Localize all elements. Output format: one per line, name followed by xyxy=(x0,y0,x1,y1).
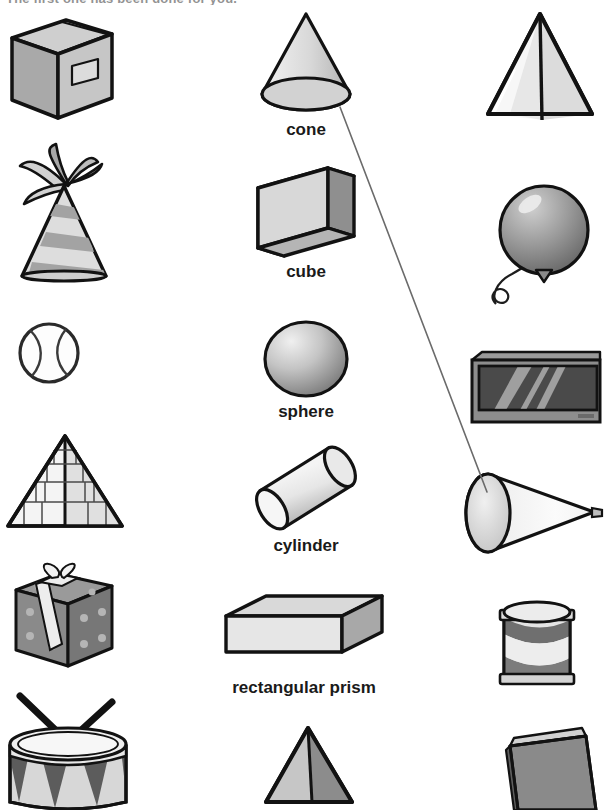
shape-label-rectangular-prism: rectangular prism xyxy=(232,678,376,698)
object-book xyxy=(506,724,600,810)
instruction-text: The first one has been done for you. xyxy=(0,0,604,5)
party-hat-icon xyxy=(6,142,122,292)
shape-label-sphere: sphere xyxy=(278,402,334,422)
object-gift-box xyxy=(8,560,120,674)
object-stone-pyramid xyxy=(2,430,128,542)
cone-icon xyxy=(246,10,366,118)
object-cardboard-box xyxy=(6,14,118,126)
object-pyramid-tent xyxy=(482,8,598,126)
pyramid-icon xyxy=(262,722,358,810)
object-drum xyxy=(2,690,134,810)
stone-pyramid-icon xyxy=(2,430,128,542)
instruction-header: The first one has been done for you. xyxy=(0,0,604,5)
book-icon xyxy=(506,724,600,810)
pyramid-tent-icon xyxy=(482,8,598,126)
shape-label-cube: cube xyxy=(286,262,326,282)
shape-label-cone: cone xyxy=(286,120,326,140)
cylinder-icon xyxy=(248,442,364,534)
television-icon xyxy=(466,348,600,426)
balloon-icon xyxy=(482,178,592,310)
object-balloon xyxy=(482,178,592,310)
shape-cylinder: cylinder xyxy=(248,442,364,534)
shape-sphere: sphere xyxy=(258,318,354,400)
object-megaphone-cone xyxy=(466,460,602,564)
cone-to-megaphone-line xyxy=(340,107,487,492)
shape-cone: cone xyxy=(246,10,366,118)
rectangular-prism-icon xyxy=(218,592,390,676)
object-tennis-ball xyxy=(14,318,84,388)
object-television xyxy=(466,348,600,426)
shape-pyramid xyxy=(262,722,358,810)
gift-box-icon xyxy=(8,560,120,674)
object-tin-can xyxy=(494,596,580,696)
shape-label-cylinder: cylinder xyxy=(273,536,338,556)
shape-rectangular-prism: rectangular prism xyxy=(218,592,390,676)
object-party-hat xyxy=(6,142,122,292)
cube-icon xyxy=(252,162,360,262)
cardboard-box-icon xyxy=(6,14,118,126)
drum-icon xyxy=(2,690,134,810)
tin-can-icon xyxy=(494,596,580,696)
shape-cube: cube xyxy=(252,162,360,262)
megaphone-cone-icon xyxy=(466,460,602,564)
worksheet-page: The first one has been done for you. xyxy=(0,0,604,810)
sphere-icon xyxy=(258,318,354,400)
tennis-ball-icon xyxy=(14,318,84,388)
